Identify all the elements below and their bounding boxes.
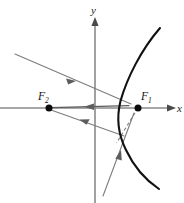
focus-label-f1-subscript: 1 [148,96,152,105]
focus-label-f2-subscript: 2 [45,96,49,105]
incoming-ray-upper-left [15,54,131,104]
incoming-ray-lower-arrowhead [80,119,90,125]
focus-point-f1 [135,105,142,112]
focus-point-f2 [46,105,53,112]
x-axis-label: x [176,102,182,114]
hyperbola-reflection-figure: x y F 2 F 1 [0,0,184,203]
labels-group: x y F 2 F 1 [37,4,182,114]
axes-group [0,17,176,203]
reflected-ray-to-focus-2-arrowhead [84,104,94,110]
y-axis-arrowhead [91,17,98,26]
y-axis-label: y [90,4,96,16]
x-axis-arrowhead [167,104,176,111]
tangent-dashed-segment [117,108,139,143]
figure-canvas: x y F 2 F 1 [0,0,184,203]
